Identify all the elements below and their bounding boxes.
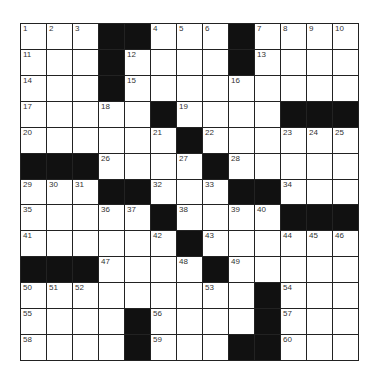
grid-cell[interactable]: 27 (177, 154, 202, 179)
grid-cell[interactable]: 29 (21, 180, 46, 205)
grid-cell[interactable]: 57 (281, 309, 306, 334)
grid-cell[interactable] (203, 102, 228, 127)
grid-cell[interactable] (177, 76, 202, 101)
grid-cell[interactable] (73, 231, 98, 256)
grid-cell[interactable]: 18 (99, 102, 124, 127)
grid-cell[interactable]: 31 (73, 180, 98, 205)
grid-cell[interactable] (307, 309, 332, 334)
grid-cell[interactable] (307, 283, 332, 308)
grid-cell[interactable]: 50 (21, 283, 46, 308)
grid-cell[interactable]: 7 (255, 24, 280, 49)
grid-cell[interactable] (47, 205, 72, 230)
grid-cell[interactable] (307, 257, 332, 282)
grid-cell[interactable] (333, 154, 358, 179)
grid-cell[interactable] (229, 309, 254, 334)
grid-cell[interactable] (177, 335, 202, 360)
grid-cell[interactable] (255, 231, 280, 256)
grid-cell[interactable] (229, 102, 254, 127)
grid-cell[interactable] (229, 128, 254, 153)
grid-cell[interactable]: 19 (177, 102, 202, 127)
grid-cell[interactable]: 16 (229, 76, 254, 101)
grid-cell[interactable]: 28 (229, 154, 254, 179)
grid-cell[interactable]: 47 (99, 257, 124, 282)
grid-cell[interactable] (151, 257, 176, 282)
grid-cell[interactable] (333, 257, 358, 282)
grid-cell[interactable] (125, 154, 150, 179)
grid-cell[interactable] (203, 50, 228, 75)
grid-cell[interactable]: 43 (203, 231, 228, 256)
grid-cell[interactable] (47, 231, 72, 256)
grid-cell[interactable]: 58 (21, 335, 46, 360)
grid-cell[interactable] (333, 76, 358, 101)
grid-cell[interactable] (177, 180, 202, 205)
grid-cell[interactable] (333, 180, 358, 205)
grid-cell[interactable] (73, 309, 98, 334)
grid-cell[interactable]: 40 (255, 205, 280, 230)
grid-cell[interactable] (47, 309, 72, 334)
grid-cell[interactable] (333, 309, 358, 334)
grid-cell[interactable]: 25 (333, 128, 358, 153)
grid-cell[interactable]: 10 (333, 24, 358, 49)
grid-cell[interactable] (177, 283, 202, 308)
grid-cell[interactable]: 26 (99, 154, 124, 179)
grid-cell[interactable]: 23 (281, 128, 306, 153)
grid-cell[interactable] (73, 335, 98, 360)
grid-cell[interactable] (281, 76, 306, 101)
grid-cell[interactable]: 55 (21, 309, 46, 334)
grid-cell[interactable] (255, 102, 280, 127)
grid-cell[interactable] (125, 231, 150, 256)
grid-cell[interactable]: 15 (125, 76, 150, 101)
grid-cell[interactable] (73, 128, 98, 153)
grid-cell[interactable] (333, 50, 358, 75)
grid-cell[interactable]: 24 (307, 128, 332, 153)
grid-cell[interactable]: 14 (21, 76, 46, 101)
grid-cell[interactable]: 6 (203, 24, 228, 49)
grid-cell[interactable]: 42 (151, 231, 176, 256)
grid-cell[interactable]: 13 (255, 50, 280, 75)
grid-cell[interactable] (333, 283, 358, 308)
grid-cell[interactable] (99, 283, 124, 308)
grid-cell[interactable]: 32 (151, 180, 176, 205)
grid-cell[interactable] (99, 231, 124, 256)
grid-cell[interactable] (99, 128, 124, 153)
grid-cell[interactable] (281, 154, 306, 179)
grid-cell[interactable]: 8 (281, 24, 306, 49)
grid-cell[interactable] (47, 128, 72, 153)
grid-cell[interactable] (177, 309, 202, 334)
grid-cell[interactable] (73, 76, 98, 101)
grid-cell[interactable]: 59 (151, 335, 176, 360)
grid-cell[interactable] (255, 154, 280, 179)
grid-cell[interactable] (47, 76, 72, 101)
grid-cell[interactable]: 46 (333, 231, 358, 256)
grid-cell[interactable] (47, 50, 72, 75)
grid-cell[interactable] (203, 205, 228, 230)
grid-cell[interactable] (47, 102, 72, 127)
grid-cell[interactable] (125, 102, 150, 127)
grid-cell[interactable] (151, 76, 176, 101)
grid-cell[interactable] (307, 50, 332, 75)
grid-cell[interactable] (281, 50, 306, 75)
grid-cell[interactable] (333, 335, 358, 360)
grid-cell[interactable]: 34 (281, 180, 306, 205)
grid-cell[interactable] (255, 257, 280, 282)
grid-cell[interactable] (281, 257, 306, 282)
grid-cell[interactable] (229, 283, 254, 308)
grid-cell[interactable]: 17 (21, 102, 46, 127)
grid-cell[interactable]: 45 (307, 231, 332, 256)
grid-cell[interactable]: 30 (47, 180, 72, 205)
grid-cell[interactable] (307, 180, 332, 205)
grid-cell[interactable]: 22 (203, 128, 228, 153)
grid-cell[interactable]: 36 (99, 205, 124, 230)
grid-cell[interactable] (203, 335, 228, 360)
grid-cell[interactable] (203, 309, 228, 334)
grid-cell[interactable]: 37 (125, 205, 150, 230)
grid-cell[interactable]: 60 (281, 335, 306, 360)
grid-cell[interactable] (73, 102, 98, 127)
grid-cell[interactable]: 53 (203, 283, 228, 308)
grid-cell[interactable] (307, 154, 332, 179)
grid-cell[interactable] (99, 309, 124, 334)
grid-cell[interactable]: 33 (203, 180, 228, 205)
grid-cell[interactable]: 48 (177, 257, 202, 282)
grid-cell[interactable]: 1 (21, 24, 46, 49)
grid-cell[interactable] (255, 76, 280, 101)
